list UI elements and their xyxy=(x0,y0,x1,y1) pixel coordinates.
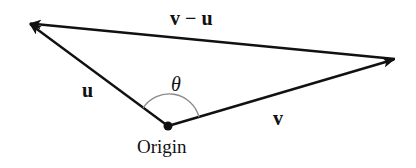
label-origin: Origin xyxy=(137,137,187,156)
label-u: u xyxy=(82,80,93,100)
vector-diagram: v − u u v θ Origin xyxy=(0,0,416,168)
label-v-minus-u: v − u xyxy=(170,8,213,28)
label-v: v xyxy=(273,108,283,128)
origin-dot xyxy=(164,122,173,131)
vector-u xyxy=(30,24,168,126)
label-theta: θ xyxy=(171,74,181,94)
